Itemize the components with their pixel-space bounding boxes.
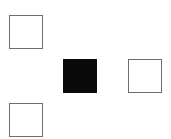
square-top-left-empty [9, 15, 43, 49]
diagram-canvas [0, 0, 171, 139]
square-bottom-left-empty [9, 103, 43, 137]
square-right-empty [128, 59, 162, 93]
square-center-filled [63, 59, 97, 93]
